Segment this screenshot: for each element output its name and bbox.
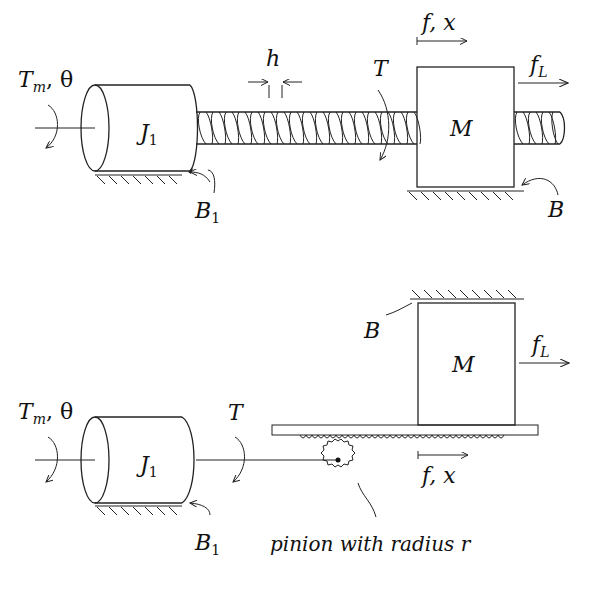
ground-hatch-j1 [95, 175, 182, 184]
pitch-label: h [266, 46, 280, 71]
damping-b1-label-2: B1 [194, 530, 220, 558]
pinion-leader [358, 483, 376, 517]
rack-pinion-system: Tm, θ J1 B1 T pini [18, 290, 569, 558]
ground-hatch-j1-2 [95, 506, 182, 515]
lead-screw [196, 112, 565, 144]
rack [272, 425, 538, 438]
damping-b-label-2: B [363, 318, 380, 343]
damping-b-label: B [547, 197, 564, 222]
damping-b-leader-2 [386, 303, 412, 315]
pinion-caption: pinion with radius r [270, 532, 472, 556]
motor-torque-label: Tm, θ [18, 67, 73, 95]
damping-b1-leader-2 [190, 503, 210, 515]
load-force-label: fL [528, 52, 547, 80]
pinion-gear [321, 439, 355, 467]
force-displacement-label: f, x [420, 10, 456, 35]
damping-b1-label: B1 [194, 198, 220, 226]
lead-screw-system: Tm, θ J1 B1 [18, 10, 568, 226]
diagram-canvas: Tm, θ J1 B1 [0, 0, 595, 605]
motor-torque-arrow [35, 105, 95, 148]
inertia-cylinder-2 [81, 417, 194, 503]
damping-b-leader [522, 178, 558, 195]
damping-b1-leader [208, 170, 215, 193]
screw-torque-label: T [373, 56, 390, 81]
shaft-torque-label: T [228, 400, 245, 425]
ground-hatch-mass [407, 191, 524, 200]
motor-torque-arrow-2 [35, 437, 95, 482]
load-force-label-2: fL [530, 332, 549, 360]
inertia-label-2: J1 [136, 452, 158, 480]
mass-label-2: M [451, 352, 475, 377]
motor-torque-label-2: Tm, θ [18, 399, 73, 427]
inertia-label: J1 [136, 120, 158, 148]
force-displacement-label-2: f, x [420, 463, 456, 488]
ground-hatch-mass-2 [410, 290, 524, 299]
mass-label: M [449, 116, 473, 141]
pitch-dimension [248, 82, 302, 98]
